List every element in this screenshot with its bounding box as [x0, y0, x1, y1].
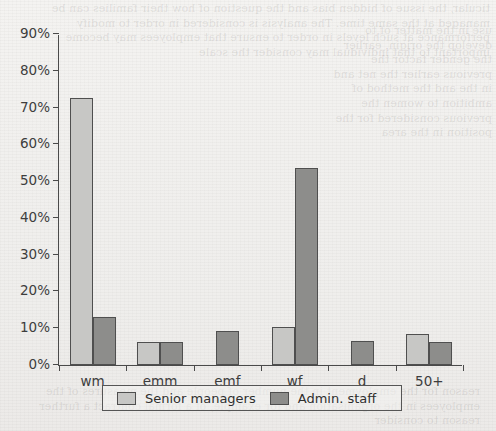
- legend-swatch-icon: [117, 392, 136, 405]
- bar-emf-admin-staff: [216, 331, 239, 365]
- bar-emm-admin-staff: [160, 342, 183, 365]
- y-tick-label: 80%: [20, 62, 50, 78]
- y-tick-mark: [53, 217, 59, 218]
- legend-entry-senior-managers[interactable]: Senior managers: [103, 391, 256, 406]
- y-tick-mark: [53, 180, 59, 181]
- bar-50+-admin-staff: [429, 342, 452, 365]
- x-tick-mark: [396, 365, 397, 371]
- x-tick-mark: [126, 365, 127, 371]
- chart-legend: Senior managersAdmin. staff: [102, 385, 402, 411]
- y-tick-label: 60%: [20, 135, 50, 151]
- x-tick-mark: [261, 365, 262, 371]
- y-tick-label: 50%: [20, 172, 50, 188]
- bar-wf-senior-managers: [272, 327, 295, 365]
- x-category-label: 50+: [415, 373, 444, 389]
- y-tick-label: 90%: [20, 25, 50, 41]
- y-tick-label: 0%: [29, 356, 50, 372]
- bar-50+-senior-managers: [406, 334, 429, 365]
- x-tick-mark: [194, 365, 195, 371]
- y-tick-label: 70%: [20, 99, 50, 115]
- y-tick-mark: [53, 327, 59, 328]
- x-tick-mark: [463, 365, 464, 371]
- bar-chart: 0%10%20%30%40%50%60%70%80%90% wmemmemfwf…: [0, 0, 496, 431]
- y-tick-label: 30%: [20, 246, 50, 262]
- bar-wm-admin-staff: [93, 317, 116, 365]
- bar-d-admin-staff: [351, 341, 374, 365]
- y-tick-mark: [53, 143, 59, 144]
- y-tick-mark: [53, 70, 59, 71]
- plot-area: 0%10%20%30%40%50%60%70%80%90% wmemmemfwf…: [58, 35, 462, 366]
- bar-emm-senior-managers: [137, 342, 160, 365]
- y-tick-mark: [53, 290, 59, 291]
- x-tick-mark: [328, 365, 329, 371]
- legend-label: Senior managers: [145, 391, 256, 406]
- legend-swatch-icon: [270, 392, 289, 405]
- y-tick-label: 10%: [20, 319, 50, 335]
- y-tick-label: 20%: [20, 282, 50, 298]
- legend-label: Admin. staff: [298, 391, 377, 406]
- y-tick-mark: [53, 107, 59, 108]
- legend-entry-admin-staff[interactable]: Admin. staff: [256, 391, 401, 406]
- y-tick-mark: [53, 33, 59, 34]
- y-tick-mark: [53, 254, 59, 255]
- bar-wf-admin-staff: [295, 168, 318, 365]
- bar-wm-senior-managers: [70, 98, 93, 365]
- x-tick-mark: [59, 365, 60, 371]
- y-tick-label: 40%: [20, 209, 50, 225]
